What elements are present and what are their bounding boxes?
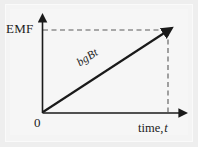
emf-data-line	[43, 33, 165, 113]
x-axis-label: time,t	[138, 122, 168, 135]
x-axis-label-text: time,	[138, 121, 163, 135]
x-axis-label-variable: t	[163, 121, 167, 135]
emf-time-graph-figure: EMF 0 time,t bgBt	[0, 0, 198, 147]
y-axis-label: EMF	[6, 22, 33, 35]
origin-label: 0	[34, 116, 41, 129]
